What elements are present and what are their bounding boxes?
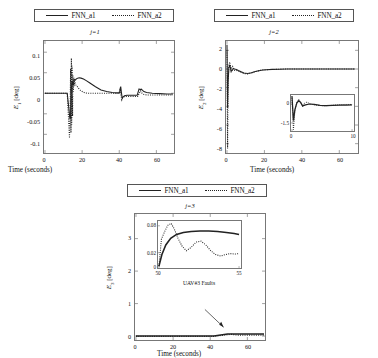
y-tick-label: 0.05: [15, 74, 40, 81]
inset-x-tick-label: 55: [233, 270, 245, 276]
legend-line-solid-icon: [226, 15, 248, 16]
y-tick-label: 0.1: [18, 52, 40, 59]
y-tick-label: 0: [18, 96, 40, 103]
inset-series-fnn-a1-curve: [292, 96, 352, 121]
y-tick-label: 3: [111, 234, 131, 241]
y-tick-label: -2: [200, 85, 222, 92]
y-axis-label-3: E3 [deg]: [105, 252, 114, 304]
annotation-label-uav3-faults: UAV#3 Faults: [183, 280, 215, 286]
y-tick-label: -0.1: [16, 140, 40, 147]
legend-label-series2: FNN_a2: [317, 12, 341, 20]
x-tick-label: 40: [294, 156, 310, 163]
x-tick-label: 40: [111, 156, 127, 163]
x-axis-label-1: Time (seconds): [8, 166, 218, 174]
inset-y-tick-label: 0.08: [139, 222, 156, 228]
y-tick-label: -4: [200, 105, 222, 112]
y-tick-label: -8: [200, 145, 222, 152]
legend-panel-3: FNN_a1 FNN_a2: [127, 184, 267, 197]
subplot-panel-3: FNN_a1 FNN_a2 j=3 E3 [deg] 3 2 1 0: [95, 178, 285, 354]
subplot-title-3: j=3: [95, 202, 285, 209]
y-axis-label-2: E2 [deg]: [197, 72, 206, 124]
subplot-panel-2: FNN_a1 FNN_a2 j=2 E2 [deg] 2 0 -2 -4 -6 …: [190, 0, 378, 178]
x-tick-label: 20: [74, 156, 90, 163]
y-tick-label: 0: [202, 65, 222, 72]
inset-y-tick-label: -1.5: [272, 120, 289, 126]
legend-entry-series2: FNN_a2: [284, 12, 350, 20]
x-tick-label: 20: [165, 343, 181, 350]
legend-label-series1: FNN_a1: [71, 12, 95, 20]
x-tick-label: 0: [127, 343, 143, 350]
y-tick-label: 2: [202, 45, 222, 52]
legend-panel-2: FNN_a1 FNN_a2: [214, 9, 354, 22]
legend-entry-series1: FNN_a1: [131, 187, 197, 195]
x-tick-label: 60: [149, 156, 165, 163]
inset-x-tick-label: 50: [152, 270, 164, 276]
x-tick-label: 60: [240, 343, 256, 350]
x-tick-label: 0: [36, 156, 52, 163]
series-fnn-a1-curve: [45, 78, 173, 119]
legend-entry-series1: FNN_a1: [38, 12, 104, 20]
inset-x-tick-label: 0: [285, 133, 297, 139]
legend-line-dotted-icon: [292, 15, 314, 16]
x-tick-label: 0: [218, 156, 234, 163]
y-tick-label: -6: [200, 125, 222, 132]
legend-line-dotted-icon: [112, 15, 134, 16]
series-fnn-a2-curve: [45, 58, 173, 138]
legend-label-series2: FNN_a2: [230, 187, 254, 195]
inset-series-fnn-a2-curve: [159, 223, 239, 266]
inset-y-tick-label: 0: [280, 100, 289, 106]
annotation-arrow-3: [205, 309, 224, 327]
legend-label-series2: FNN_a2: [137, 12, 161, 20]
inset-y-tick-label: 0.02: [139, 250, 156, 256]
subplot-panel-1: FNN_a1 FNN_a2 j=1 E1 [deg] 0.1 0.05 0 -0…: [0, 0, 190, 178]
inset-plot-2: [290, 94, 355, 132]
y-tick-label: 2: [111, 267, 131, 274]
plot-svg-1: [44, 41, 174, 153]
legend-line-dotted-icon: [205, 190, 227, 191]
y-tick-label: 0: [111, 333, 131, 340]
legend-label-series1: FNN_a1: [251, 12, 275, 20]
legend-line-solid-icon: [139, 190, 161, 191]
inset-svg-2: [291, 95, 354, 131]
subplot-title-1: j=1: [0, 28, 190, 35]
y-tick-label: 1: [111, 300, 131, 307]
legend-label-series1: FNN_a1: [164, 187, 188, 195]
legend-panel-1: FNN_a1 FNN_a2: [34, 9, 174, 22]
inset-svg-3: [158, 221, 241, 268]
inset-series-fnn-a1-curve: [159, 231, 239, 266]
legend-entry-series2: FNN_a2: [104, 12, 170, 20]
inset-plot-3: [157, 220, 242, 269]
inset-x-tick-label: 10: [347, 133, 359, 139]
subplot-title-2: j=2: [180, 28, 368, 35]
plot-area-1: [43, 40, 175, 154]
x-tick-label: 20: [256, 156, 272, 163]
x-axis-label-3: Time (seconds): [95, 350, 295, 358]
y-tick-label: -0.05: [13, 118, 40, 125]
legend-entry-series1: FNN_a1: [218, 12, 284, 20]
x-tick-label: 60: [332, 156, 348, 163]
x-tick-label: 40: [202, 343, 218, 350]
legend-entry-series2: FNN_a2: [197, 187, 263, 195]
legend-line-solid-icon: [46, 15, 68, 16]
x-axis-label-2: Time (seconds): [190, 166, 378, 174]
